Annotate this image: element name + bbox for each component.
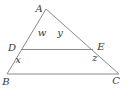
vertex-label-a: A <box>34 3 42 14</box>
vertex-label-c: C <box>112 75 120 86</box>
angle-label-w: w <box>38 27 47 38</box>
angle-label-z: z <box>91 52 98 63</box>
angle-label-x: x <box>15 54 21 65</box>
geometry-diagram: A B C D E w y x z <box>0 0 129 89</box>
point-label-d: D <box>7 42 16 53</box>
side-ac <box>46 9 119 74</box>
point-label-e: E <box>96 41 105 52</box>
triangle-figure: A B C D E w y x z <box>0 0 129 89</box>
angle-label-y: y <box>56 27 63 38</box>
vertex-label-b: B <box>1 76 9 87</box>
